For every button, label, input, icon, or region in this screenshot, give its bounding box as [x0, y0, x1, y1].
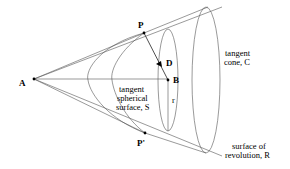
point-B: [167, 79, 170, 82]
upper-tangent-line-2: [144, 7, 208, 33]
point-A: [33, 78, 36, 81]
tangent-cone-diagram: A P P' D B r tangent cone, C tangent sph…: [0, 0, 290, 169]
label-r: r: [172, 95, 175, 105]
label-B: B: [173, 75, 179, 85]
label-A: A: [19, 78, 26, 88]
sphere-upper-tangent: [34, 33, 144, 79]
point-P: [143, 32, 146, 35]
surface-of-revolution-arc: [88, 33, 145, 133]
point-P-prime: [144, 132, 147, 135]
label-surface-revolution-2: revolution, R: [225, 150, 270, 160]
label-tangent-cone-2: cone, C: [224, 57, 250, 67]
cone-base-circle: [192, 7, 220, 153]
label-D: D: [166, 58, 173, 68]
label-P-prime: P': [137, 138, 145, 148]
label-P: P: [138, 20, 144, 30]
label-tangent-sphere-3: surface, S: [116, 102, 150, 112]
normal-line-P-to-B: [144, 33, 168, 80]
